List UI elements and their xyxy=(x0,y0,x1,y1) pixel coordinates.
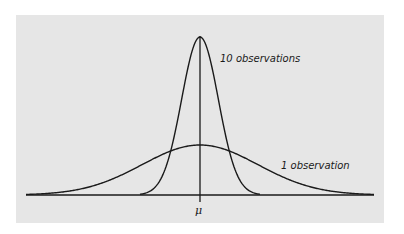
distribution-plot xyxy=(0,0,404,234)
mean-label: μ xyxy=(195,204,202,217)
label-10-observations: 10 observations xyxy=(220,53,300,64)
label-1-observation: 1 observation xyxy=(281,160,350,171)
